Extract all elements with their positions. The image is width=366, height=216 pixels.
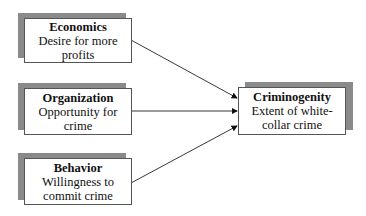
node-title: Criminogenity [253,90,331,104]
node-title: Economics [49,20,107,34]
node-title: Behavior [54,161,103,175]
edge-behavior-criminogenity [131,126,237,183]
node-box: Behavior Willingness to commit crime [24,158,132,205]
node-box: Criminogenity Extent of white-collar cri… [238,87,346,135]
node-description: Desire for more profits [29,34,127,62]
node-box: Economics Desire for more profits [24,18,132,63]
node-title: Organization [43,91,114,105]
node-description: Willingness to commit crime [29,175,127,203]
node-box: Organization Opportunity for crime [24,88,132,135]
node-description: Extent of white-collar crime [243,104,341,132]
node-description: Opportunity for crime [29,105,127,133]
edge-economics-criminogenity [131,40,237,98]
